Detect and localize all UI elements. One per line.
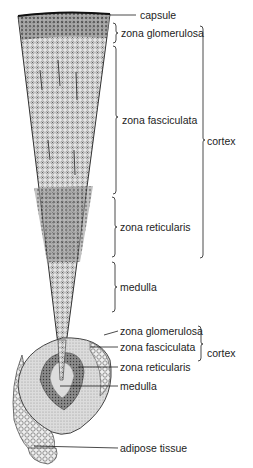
label-cortex-upper: cortex: [207, 135, 236, 147]
glomerulosa-bracket: [113, 23, 118, 43]
medulla-bracket: [112, 262, 117, 312]
cross-section: [13, 338, 111, 464]
label-medulla: medulla: [120, 281, 157, 293]
label-lower-zona-glomerulosa: zona glomerulosa: [120, 325, 203, 337]
label-lower-medulla: medulla: [120, 380, 157, 392]
label-lower-zona-reticularis: zona reticularis: [120, 361, 191, 373]
reticularis-bracket: [112, 197, 117, 257]
label-capsule: capsule: [140, 9, 176, 21]
label-adipose-tissue: adipose tissue: [120, 442, 187, 454]
label-zona-reticularis: zona reticularis: [120, 221, 191, 233]
cortex-bracket: [200, 26, 205, 258]
lower-glomerulosa-leader: [104, 331, 118, 335]
label-cortex-lower: cortex: [207, 347, 236, 359]
label-zona-fasciculata: zona fasciculata: [122, 114, 197, 126]
label-lower-zona-fasciculata: zona fasciculata: [120, 341, 195, 353]
adrenal-illustration: [0, 0, 253, 468]
label-zona-glomerulosa: zona glomerulosa: [121, 27, 204, 39]
fasciculata-bracket: [113, 46, 118, 194]
cortex-wedge: [18, 12, 110, 345]
